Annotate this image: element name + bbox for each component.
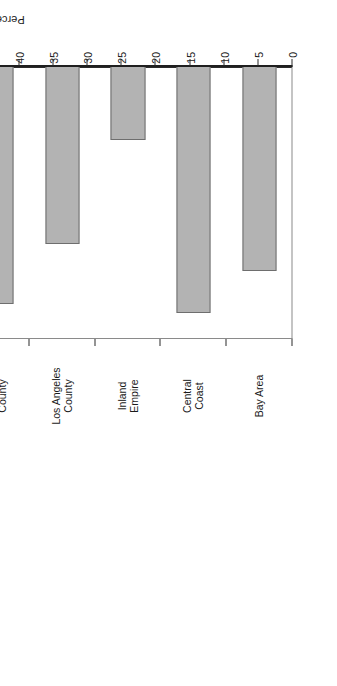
category-tick-mark	[159, 339, 160, 346]
value-tick-label: 0	[286, 52, 298, 96]
value-tick-label: 35	[47, 52, 59, 96]
bar	[0, 66, 13, 304]
bars-layer	[0, 66, 292, 339]
value-axis-title: Percentage	[0, 10, 292, 30]
value-axis-title-text: Percentage	[0, 14, 24, 26]
bar-chart-figure: 0510152025303540 Bay AreaCentralCoastInl…	[0, 0, 337, 686]
bar	[242, 66, 276, 271]
bar	[176, 66, 210, 313]
category-tick-mark	[94, 339, 95, 346]
category-label: Bay Area	[253, 348, 265, 444]
value-tick-label: 25	[115, 52, 127, 96]
category-tick-mark	[291, 339, 292, 346]
category-tick-mark	[28, 339, 29, 346]
category-label: InlandEmpire	[116, 348, 139, 444]
value-tick-label: 30	[81, 52, 93, 96]
category-label: OrangeCounty	[0, 348, 8, 444]
value-tick-label: 15	[184, 52, 196, 96]
value-tick-label: 10	[218, 52, 230, 96]
value-tick-label: 20	[150, 52, 162, 96]
category-tick-mark	[225, 339, 226, 346]
category-label: Los AngelesCounty	[50, 348, 73, 444]
value-tick-label: 5	[252, 52, 264, 96]
value-tick-label: 40	[13, 52, 25, 96]
category-axis-labels: Bay AreaCentralCoastInlandEmpireLos Ange…	[0, 348, 292, 448]
category-label: CentralCoast	[182, 348, 205, 444]
